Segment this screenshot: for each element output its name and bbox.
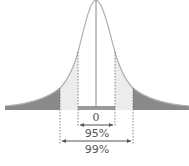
bell-curve	[5, 0, 189, 106]
left-tail-region	[5, 88, 60, 110]
ci95-label: 95%	[85, 128, 109, 139]
ci99-label: 99%	[85, 144, 109, 155]
right-tail-region	[133, 88, 189, 110]
normal-curve-diagram	[0, 0, 189, 166]
center-label: 0	[93, 112, 100, 123]
